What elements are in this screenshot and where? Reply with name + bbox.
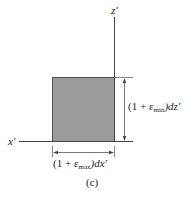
z-axis-label: z′ bbox=[111, 5, 118, 16]
arrowhead-up-icon bbox=[123, 78, 126, 83]
dim-subscript: min bbox=[154, 106, 165, 114]
x-axis-label: x′ bbox=[8, 136, 15, 147]
deformed-element bbox=[53, 78, 115, 142]
horizontal-dimension-label: (1 + εmax)dx′ bbox=[53, 158, 107, 171]
vertical-dimension-label: (1 + εmin)dz′ bbox=[128, 101, 180, 114]
dim-subscript: max bbox=[79, 163, 91, 171]
arrowhead-down-icon bbox=[123, 136, 126, 141]
dim-prefix: (1 + bbox=[128, 100, 149, 112]
arrowhead-left-icon bbox=[53, 151, 58, 154]
dim-suffix: )dz′ bbox=[164, 100, 180, 112]
dim-prefix: (1 + bbox=[53, 157, 74, 169]
figure-caption: (c) bbox=[86, 177, 98, 188]
arrowhead-right-icon bbox=[109, 151, 114, 154]
dim-suffix: )dx′ bbox=[91, 157, 107, 169]
